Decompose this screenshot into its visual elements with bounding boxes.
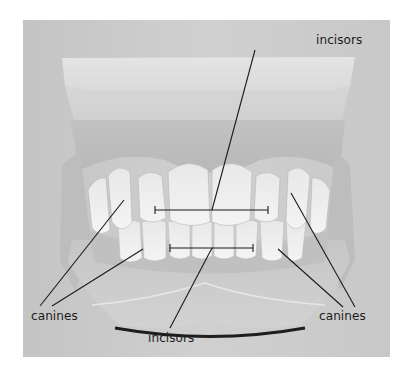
label-canines-right: canines [319,309,366,323]
dental-diagram: incisors canines incisors canines [0,0,411,377]
label-incisors-upper: incisors [316,33,362,47]
label-canines-left: canines [31,309,78,323]
label-incisors-lower: incisors [148,331,194,345]
